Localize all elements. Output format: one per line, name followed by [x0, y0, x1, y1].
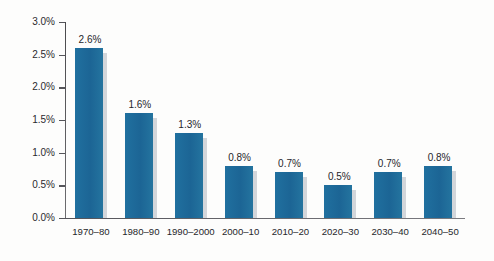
y-axis-tick-labels: 3.0%2.5%2.0%1.5%1.0%0.5%0.0%: [19, 0, 55, 261]
bar[interactable]: [424, 166, 452, 218]
y-axis-tick-label: 3.0%: [19, 17, 55, 27]
bar-value-label: 0.8%: [410, 152, 468, 163]
bar-group[interactable]: 0.7%: [365, 22, 415, 218]
bar-value-label: 1.3%: [161, 119, 219, 130]
bar-group[interactable]: 1.6%: [116, 22, 166, 218]
bar-group[interactable]: 0.8%: [415, 22, 465, 218]
y-axis-tick-mark: [59, 153, 65, 154]
x-axis-line: [65, 218, 465, 219]
bar[interactable]: [275, 172, 303, 218]
y-axis-tick-label: 2.0%: [19, 82, 55, 92]
y-axis-tick-mark: [59, 55, 65, 56]
bar[interactable]: [374, 172, 402, 218]
bar-value-label: 0.7%: [261, 158, 319, 169]
bar-group[interactable]: 0.8%: [216, 22, 266, 218]
y-axis-tick-mark: [59, 22, 65, 23]
x-axis-tick-labels: 1970–801980–901990–20002000–102010–20202…: [66, 226, 465, 246]
y-axis-tick-mark: [59, 120, 65, 121]
plot-area: 2.6%1.6%1.3%0.8%0.7%0.5%0.7%0.8%: [66, 22, 465, 218]
y-axis-tick-mark: [59, 87, 65, 88]
x-axis-tick-label: 2040–50: [408, 226, 472, 238]
y-axis-tick-label: 1.5%: [19, 115, 55, 125]
y-axis-tick-mark: [59, 218, 65, 219]
y-axis-tick-label: 2.5%: [19, 50, 55, 60]
bar-value-label: 1.6%: [111, 99, 169, 110]
bar[interactable]: [175, 133, 203, 218]
y-axis-tick-label: 1.0%: [19, 148, 55, 158]
bar-value-label: 0.5%: [310, 171, 368, 182]
bar[interactable]: [324, 185, 352, 218]
bar[interactable]: [75, 48, 103, 218]
bar[interactable]: [225, 166, 253, 218]
y-axis-tick-label: 0.5%: [19, 180, 55, 190]
bar-group[interactable]: 0.5%: [315, 22, 365, 218]
bar-value-label: 2.6%: [61, 34, 119, 45]
bar[interactable]: [125, 113, 153, 218]
bar-group[interactable]: 0.7%: [266, 22, 316, 218]
bar-group[interactable]: 1.3%: [166, 22, 216, 218]
y-axis-tick-mark: [59, 185, 65, 186]
y-axis-tick-label: 0.0%: [19, 213, 55, 223]
bar-chart: Annual Growth Rate (%) 3.0%2.5%2.0%1.5%1…: [0, 0, 494, 261]
bar-group[interactable]: 2.6%: [66, 22, 116, 218]
